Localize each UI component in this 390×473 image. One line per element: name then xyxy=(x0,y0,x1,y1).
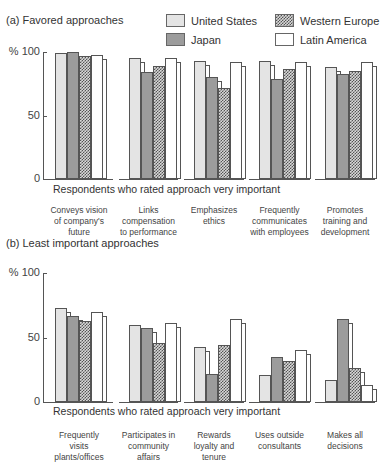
category-label-line: Makes all xyxy=(309,430,381,441)
category-label-line: Promotes xyxy=(309,205,381,216)
group-baseline xyxy=(249,402,310,403)
y-tick-mark xyxy=(43,52,47,53)
y-tick-mark xyxy=(43,338,47,339)
group-baseline xyxy=(249,179,310,180)
bar-us xyxy=(194,61,206,179)
category-label-line: tenure xyxy=(178,452,250,463)
category-label-line: development xyxy=(309,227,381,238)
bar-us xyxy=(325,67,337,179)
bar-jp xyxy=(337,74,349,179)
bar-la xyxy=(361,385,373,402)
bar-we xyxy=(79,321,91,402)
y-tick-label: 50 xyxy=(0,109,40,121)
bar-la xyxy=(230,319,242,402)
legend-label: Western Europe xyxy=(300,15,379,27)
category-label-line: Participates in xyxy=(113,430,185,441)
group-baseline xyxy=(315,402,375,403)
category-label-line: affairs xyxy=(113,452,185,463)
bar-jp xyxy=(206,77,218,179)
group-baseline xyxy=(119,402,178,403)
bar-we xyxy=(79,56,91,179)
legend-swatch-us xyxy=(166,14,185,27)
category-label: Linkscompensationto performance xyxy=(113,205,185,238)
y-tick-label: 50 xyxy=(0,331,40,343)
group-baseline xyxy=(45,179,113,180)
category-label-line: Frequently xyxy=(43,430,115,441)
bar-we xyxy=(349,368,361,402)
bar-we xyxy=(153,343,165,402)
category-label-line: Links xyxy=(113,205,185,216)
category-label-line: training and xyxy=(309,216,381,227)
y-tick-mark xyxy=(43,116,47,117)
x-axis-label: Respondents who rated approach very impo… xyxy=(53,405,280,417)
bar-us xyxy=(55,53,67,179)
bar-jp xyxy=(206,374,218,402)
bar-we xyxy=(283,361,295,402)
chart-title: (a) Favored approaches xyxy=(6,14,123,26)
bar-jp xyxy=(337,319,349,402)
legend-item-us: United States xyxy=(166,14,257,27)
bar-la xyxy=(361,62,373,179)
bar-we xyxy=(153,66,165,179)
chart-title: (b) Least important approaches xyxy=(6,237,159,249)
category-label: Frequentlyvisitsplants/offices xyxy=(43,430,115,463)
y-tick-mark xyxy=(43,273,47,274)
bar-us xyxy=(259,61,271,179)
bar-us xyxy=(55,308,67,402)
bar-us xyxy=(129,58,141,179)
bar-we xyxy=(283,69,295,179)
category-label-line: Uses outside xyxy=(244,430,316,441)
bar-la xyxy=(295,350,307,402)
bar-we xyxy=(218,88,230,179)
bar-la xyxy=(230,62,242,179)
legend-swatch-we xyxy=(275,14,294,27)
bar-us xyxy=(259,375,271,402)
bar-jp xyxy=(271,79,283,179)
bar-us xyxy=(129,325,141,402)
legend-swatch-la xyxy=(275,33,294,46)
category-label-line: plants/offices xyxy=(43,452,115,463)
bar-jp xyxy=(141,328,153,402)
legend-label: Latin America xyxy=(300,34,367,46)
y-tick-label: 0 xyxy=(0,395,40,407)
category-label: Emphasizesethics xyxy=(178,205,250,227)
y-tick-label: 0 xyxy=(0,172,40,184)
category-label: Uses outsideconsultants xyxy=(244,430,316,452)
category-label-line: with employees xyxy=(244,227,316,238)
y-tick-label: % 100 xyxy=(0,266,40,278)
category-label-line: Emphasizes xyxy=(178,205,250,216)
category-label-line: decisions xyxy=(309,441,381,452)
bar-jp xyxy=(67,52,79,179)
legend-item-la: Latin America xyxy=(275,33,367,46)
category-label-line: visits xyxy=(43,441,115,452)
group-baseline xyxy=(184,402,244,403)
bar-jp xyxy=(271,357,283,402)
bar-la xyxy=(91,312,103,402)
category-label: Conveys visionof company'sfuture xyxy=(43,205,115,238)
category-label-line: of company's xyxy=(43,216,115,227)
category-label-line: Rewards xyxy=(178,430,250,441)
bar-la xyxy=(165,323,177,402)
category-label-line: community xyxy=(113,441,185,452)
y-tick-label: % 100 xyxy=(0,45,40,57)
category-label-line: loyalty and xyxy=(178,441,250,452)
legend-swatch-jp xyxy=(166,33,185,46)
x-axis-label: Respondents who rated approach very impo… xyxy=(53,183,280,195)
bar-la xyxy=(91,55,103,179)
category-label: Makes alldecisions xyxy=(309,430,381,452)
category-label-line: Frequently xyxy=(244,205,316,216)
category-label-line: consultants xyxy=(244,441,316,452)
bar-we xyxy=(349,71,361,179)
category-label-line: communicates xyxy=(244,216,316,227)
group-baseline xyxy=(45,402,113,403)
legend-label: United States xyxy=(191,15,257,27)
bar-us xyxy=(194,347,206,402)
bar-la xyxy=(165,58,177,179)
bar-jp xyxy=(141,72,153,179)
category-label-line: ethics xyxy=(178,216,250,227)
category-label: Frequentlycommunicateswith employees xyxy=(244,205,316,238)
category-label-line: compensation xyxy=(113,216,185,227)
legend-item-we: Western Europe xyxy=(275,14,379,27)
category-label: Promotestraining anddevelopment xyxy=(309,205,381,238)
group-baseline xyxy=(184,179,244,180)
